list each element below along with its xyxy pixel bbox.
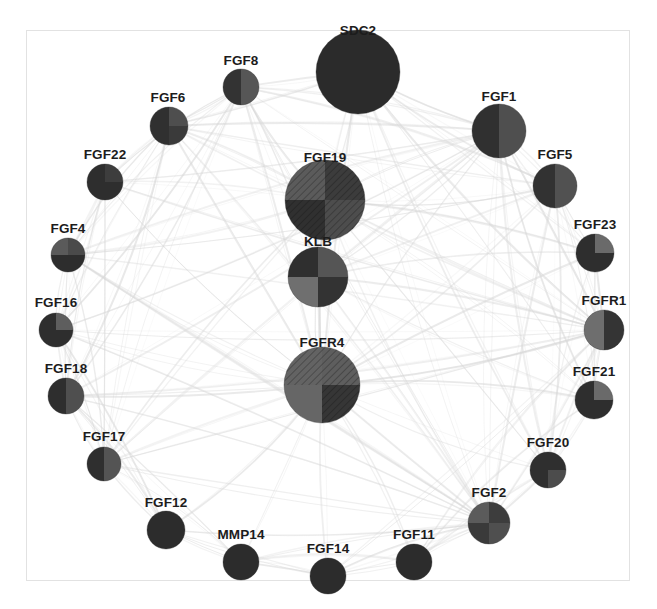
node-label-fgf21: FGF21 xyxy=(573,364,616,379)
node-label-mmp14: MMP14 xyxy=(217,527,264,542)
node-label-fgf20: FGF20 xyxy=(527,435,570,450)
node-quadrant-hatch-tl xyxy=(285,160,325,200)
graph-node-fgfr1[interactable] xyxy=(584,310,624,350)
graph-node-fgf21[interactable] xyxy=(575,381,613,419)
node-label-fgf16: FGF16 xyxy=(35,295,78,310)
graph-node-fgf6[interactable] xyxy=(150,107,188,145)
node-quadrant-bl xyxy=(288,277,318,307)
node-label-fgf14: FGF14 xyxy=(307,541,350,556)
graph-node-fgf4[interactable] xyxy=(51,238,85,272)
node-quadrant-br xyxy=(555,186,577,208)
node-quadrant-tl xyxy=(288,247,318,277)
node-label-fgfr4: FGFR4 xyxy=(300,335,345,350)
network-figure-canvas: SDC2FGF19KLBFGFR4FGF8FGF6FGF22FGF4FGF16F… xyxy=(0,0,657,609)
node-label-fgf18: FGF18 xyxy=(45,361,88,376)
graph-node-fgf18[interactable] xyxy=(48,378,84,414)
network-graph-svg xyxy=(0,0,657,609)
node-quadrant-tr xyxy=(318,247,348,277)
node-label-fgfr1: FGFR1 xyxy=(582,293,627,308)
node-label-fgf8: FGF8 xyxy=(224,53,259,68)
node-label-fgf5: FGF5 xyxy=(538,147,573,162)
graph-node-fgfr4[interactable] xyxy=(284,347,360,423)
graph-node-fgf8[interactable] xyxy=(223,69,259,105)
node-label-fgf19: FGF19 xyxy=(304,150,347,165)
node-quadrant-br xyxy=(358,72,400,114)
graph-node-mmp14[interactable] xyxy=(223,544,259,580)
node-label-fgf11: FGF11 xyxy=(393,527,435,542)
node-label-fgf6: FGF6 xyxy=(151,90,186,105)
node-quadrant-hatch-tl xyxy=(284,347,322,385)
graph-node-sdc2[interactable] xyxy=(316,30,400,114)
graph-node-fgf19[interactable] xyxy=(285,160,365,240)
node-label-sdc2: SDC2 xyxy=(340,23,376,38)
node-label-fgf17: FGF17 xyxy=(83,429,126,444)
graph-node-fgf16[interactable] xyxy=(39,313,73,347)
node-quadrant-tr xyxy=(555,164,577,186)
graph-node-fgf23[interactable] xyxy=(576,234,614,272)
node-quadrant-hatch-tr xyxy=(322,347,360,385)
node-label-fgf1: FGF1 xyxy=(482,89,517,104)
node-quadrant-hatch-br xyxy=(322,385,360,423)
graph-edge xyxy=(68,255,489,523)
graph-node-fgf22[interactable] xyxy=(87,164,123,200)
node-label-klb: KLB xyxy=(304,234,332,249)
graph-node-fgf11[interactable] xyxy=(396,544,432,580)
node-label-fgf12: FGF12 xyxy=(145,495,188,510)
node-label-fgf4: FGF4 xyxy=(51,221,86,236)
node-quadrant-tr xyxy=(499,104,526,131)
node-label-fgf2: FGF2 xyxy=(472,485,507,500)
node-quadrant-bl xyxy=(316,72,358,114)
node-label-fgf22: FGF22 xyxy=(84,147,127,162)
edge-layer xyxy=(56,72,604,576)
graph-node-fgf1[interactable] xyxy=(472,104,526,158)
graph-node-fgf14[interactable] xyxy=(310,558,346,594)
node-quadrant-bl xyxy=(284,385,322,423)
graph-node-klb[interactable] xyxy=(288,247,348,307)
graph-node-fgf5[interactable] xyxy=(533,164,577,208)
node-quadrant-hatch-tr xyxy=(325,160,365,200)
graph-node-fgf12[interactable] xyxy=(147,511,185,549)
graph-edge xyxy=(66,396,489,523)
node-quadrant-br xyxy=(318,277,348,307)
node-quadrant-tl xyxy=(472,104,499,131)
graph-edge xyxy=(66,396,489,523)
graph-node-fgf20[interactable] xyxy=(530,452,566,488)
graph-node-fgf2[interactable] xyxy=(468,502,510,544)
node-label-fgf23: FGF23 xyxy=(574,217,617,232)
graph-node-fgf17[interactable] xyxy=(87,447,121,481)
